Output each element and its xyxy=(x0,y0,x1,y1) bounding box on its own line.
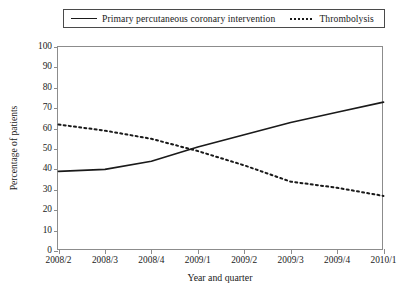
legend-label-thrombolysis: Thrombolysis xyxy=(319,14,374,24)
line-chart-figure: Primary percutaneous coronary interventi… xyxy=(0,0,419,298)
y-axis-tick xyxy=(54,251,58,252)
x-axis-tick-label: 2009/3 xyxy=(278,256,304,265)
x-axis-tick-label: 2008/3 xyxy=(92,256,118,265)
y-axis-tick-label: 90 xyxy=(43,63,52,72)
y-axis-tick-label: 100 xyxy=(38,42,52,51)
dotted-line-icon xyxy=(288,14,314,23)
y-axis-tick-label: 20 xyxy=(43,205,52,214)
x-axis-title: Year and quarter xyxy=(188,273,253,283)
y-axis-tick-label: 80 xyxy=(43,83,52,92)
chart-legend: Primary percutaneous coronary interventi… xyxy=(63,9,385,28)
y-axis-title: Percentage of patients xyxy=(9,106,19,191)
x-axis-tick-label: 2008/4 xyxy=(138,256,164,265)
series-line-2 xyxy=(59,125,384,196)
x-axis-tick-label: 2008/2 xyxy=(45,256,71,265)
x-axis-tick-label: 2010/1 xyxy=(370,256,396,265)
y-axis-tick-label: 30 xyxy=(43,185,52,194)
y-axis-tick-label: 50 xyxy=(43,144,52,153)
series-layer xyxy=(58,47,384,251)
y-axis-tick-label: 70 xyxy=(43,103,52,112)
series-line-1 xyxy=(59,102,384,171)
x-axis-tick-label: 2009/4 xyxy=(324,256,350,265)
legend-entry-primary-pci: Primary percutaneous coronary interventi… xyxy=(71,14,275,24)
legend-entry-thrombolysis: Thrombolysis xyxy=(288,14,374,24)
plot-area: Percentage of patients 01020304050607080… xyxy=(57,46,383,250)
y-axis-tick-label: 60 xyxy=(43,124,52,133)
y-axis-tick-label: 10 xyxy=(43,226,52,235)
legend-label-primary-pci: Primary percutaneous coronary interventi… xyxy=(102,14,275,24)
x-axis-tick-label: 2009/2 xyxy=(231,256,257,265)
y-axis-tick-label: 40 xyxy=(43,165,52,174)
solid-line-icon xyxy=(71,14,97,23)
x-axis-tick-label: 2009/1 xyxy=(185,256,211,265)
